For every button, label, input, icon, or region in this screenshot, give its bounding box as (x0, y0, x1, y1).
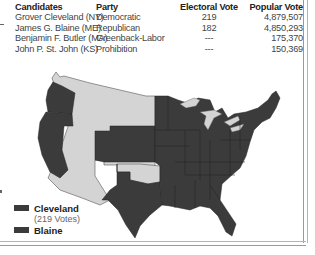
popular-vote: 150,369 (241, 44, 303, 54)
edge-mark (0, 190, 2, 193)
candidate-name: Grover Cleveland (NY) (15, 12, 104, 22)
edge-mark (0, 24, 4, 25)
header-popular-vote: Popular Vote (241, 2, 303, 12)
popular-vote: 4,850,293 (241, 23, 303, 33)
header-candidates: Candidates (15, 2, 63, 12)
candidate-party: Prohibition (96, 44, 137, 54)
legend-sublabel: (219 Votes) (34, 214, 80, 224)
electoral-vote: --- (174, 44, 244, 54)
candidate-name: John P. St. John (KS) (15, 44, 98, 54)
legend-label: Cleveland (34, 203, 79, 214)
legend-swatch (14, 205, 29, 211)
frame-border-right (303, 0, 308, 243)
candidate-name: James G. Blaine (ME) (15, 23, 101, 33)
electoral-vote: 182 (174, 23, 244, 33)
candidate-party: Greenback-Labor (96, 33, 165, 43)
candidate-party: Democratic (96, 12, 140, 22)
legend-swatch (14, 227, 29, 233)
electoral-vote: 219 (174, 12, 244, 22)
popular-vote: 175,370 (241, 33, 303, 43)
popular-vote: 4,879,507 (241, 12, 303, 22)
candidate-name: Benjamin F. Butler (MA) (15, 33, 107, 43)
header-party: Party (96, 2, 118, 12)
candidate-party: Republican (96, 23, 140, 33)
state-colorado-kansas-nebraska (95, 126, 155, 162)
electoral-vote: --- (174, 33, 244, 43)
header-electoral-vote: Electoral Vote (174, 2, 244, 12)
legend-label: Blaine (34, 225, 63, 236)
